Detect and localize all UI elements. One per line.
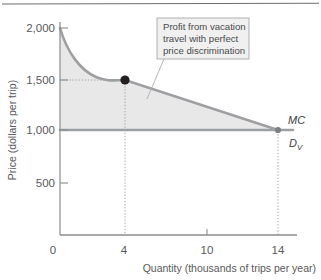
x-tick-label-14: 14 bbox=[272, 244, 285, 256]
y-tick-label-2000: 2,000 bbox=[26, 22, 55, 34]
dv-label-subscript: V bbox=[297, 143, 303, 152]
profit-callout-line-2: travel with perfect bbox=[163, 33, 239, 44]
dv-label-main: D bbox=[289, 137, 297, 149]
price-discrimination-chart: 2,000 1,500 1,000 500 0 4 10 14 Price (d… bbox=[0, 0, 321, 280]
dv-curve-label: DV bbox=[289, 137, 303, 152]
equilibrium-point-marker bbox=[120, 75, 129, 84]
mc-curve-label: MC bbox=[288, 114, 305, 126]
y-tick-label-500: 500 bbox=[36, 177, 55, 189]
top-rule bbox=[2, 3, 319, 4]
x-tick-label-10: 10 bbox=[201, 244, 214, 256]
y-tick-label-1000: 1,000 bbox=[26, 124, 55, 136]
x-tick-label-0: 0 bbox=[50, 244, 56, 256]
y-axis-label: Price (dollars per trip) bbox=[6, 80, 18, 180]
x-tick-label-4: 4 bbox=[121, 244, 128, 256]
y-tick-label-1500: 1,500 bbox=[26, 74, 55, 86]
profit-callout-line-1: Profit from vacation bbox=[163, 21, 246, 32]
profit-callout-line-3: price discrimination bbox=[163, 45, 245, 56]
mc-demand-intersection-marker bbox=[275, 127, 281, 133]
x-axis-label: Quantity (thousands of trips per year) bbox=[143, 262, 316, 274]
